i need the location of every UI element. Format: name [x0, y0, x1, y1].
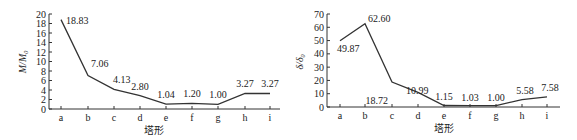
y-tick-label: 2	[41, 94, 46, 105]
y-tick-label: 60	[314, 22, 324, 33]
y-tick-label: 20	[36, 9, 46, 20]
right-chart: 010203040506070 abcdefghi 49.8762.6018.7…	[294, 9, 560, 135]
x-tick-label: a	[338, 110, 343, 121]
x-tick-label: c	[390, 110, 395, 121]
x-tick-label: c	[112, 112, 117, 123]
y-tick-label: 50	[314, 35, 324, 46]
y-tick-label: 30	[314, 62, 324, 73]
y-tick-label: 18	[36, 18, 46, 29]
y-tick-label: 10	[36, 56, 46, 67]
x-tick-label: i	[546, 110, 549, 121]
left-chart: 02468101214161820 abcdefghi 18.837.064.1…	[17, 9, 280, 137]
data-label: 49.87	[337, 43, 360, 54]
data-label: 3.27	[236, 78, 254, 89]
data-label: 10.99	[406, 85, 429, 96]
y-tick-label: 10	[314, 88, 324, 99]
y-tick-label: 12	[36, 47, 46, 58]
y-tick-label: 6	[41, 75, 46, 86]
y-tick-label: 0	[319, 102, 324, 113]
y-tick-label: 16	[36, 28, 46, 39]
data-label: 62.60	[368, 13, 391, 24]
data-label: 4.13	[113, 74, 131, 85]
x-tick-label: b	[86, 112, 91, 123]
x-tick-label: h	[243, 112, 248, 123]
left-data-labels: 18.837.064.132.801.041.201.003.273.27	[66, 15, 279, 101]
x-tick-label: e	[164, 112, 169, 123]
data-label: 18.83	[66, 15, 89, 26]
data-label: 1.20	[183, 88, 201, 99]
y-tick-label: 4	[41, 85, 46, 96]
x-tick-label: g	[494, 110, 499, 121]
x-tick-label: b	[363, 110, 368, 121]
x-tick-label: a	[59, 112, 64, 123]
data-label: 1.15	[435, 91, 453, 102]
y-tick-label: 14	[36, 37, 46, 48]
data-label: 18.72	[366, 95, 389, 106]
y-tick-label: 0	[41, 104, 46, 115]
y-tick-label: 70	[314, 9, 324, 20]
x-tick-label: f	[468, 110, 472, 121]
y-tick-label: 40	[314, 48, 324, 59]
y-tick-label: 20	[314, 75, 324, 86]
data-label: 3.27	[261, 78, 279, 89]
y-tick-label: 8	[41, 66, 46, 77]
x-tick-label: d	[138, 112, 143, 123]
figure: 02468101214161820 abcdefghi 18.837.064.1…	[0, 0, 577, 140]
x-tick-label: d	[416, 110, 421, 121]
data-label: 1.00	[209, 89, 227, 100]
data-label: 7.06	[91, 58, 109, 69]
data-label: 1.00	[487, 92, 505, 103]
x-tick-label: i	[269, 112, 272, 123]
x-tick-label: h	[520, 110, 525, 121]
data-label: 1.04	[157, 89, 175, 100]
left-y-ticks: 02468101214161820	[36, 9, 52, 115]
right-x-axis-title: 塔形	[434, 122, 454, 134]
left-y-axis-title: M/M0	[17, 51, 29, 74]
data-label: 5.58	[516, 85, 534, 96]
x-tick-label: e	[442, 110, 447, 121]
data-label: 7.58	[541, 82, 559, 93]
right-y-axis-title: δ/δ0	[294, 54, 306, 69]
x-tick-label: g	[216, 112, 221, 123]
data-label: 1.03	[461, 92, 479, 103]
right-y-ticks: 010203040506070	[314, 9, 330, 113]
data-label: 2.80	[131, 81, 149, 92]
left-x-axis-title: 塔形	[144, 124, 164, 136]
right-data-labels: 49.8762.6018.7210.991.151.031.005.587.58	[337, 13, 559, 106]
x-tick-label: f	[190, 112, 194, 123]
